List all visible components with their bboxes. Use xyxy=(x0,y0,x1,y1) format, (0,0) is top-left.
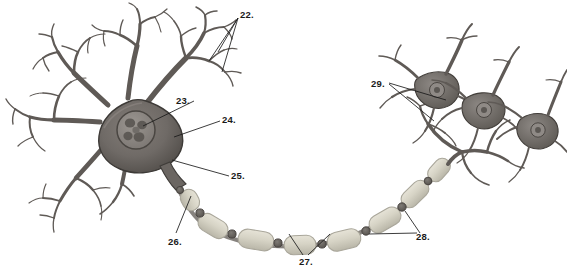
axon-hillock xyxy=(160,162,186,190)
label-28: 28. xyxy=(416,232,430,242)
label-24: 24. xyxy=(222,115,236,125)
nucleus xyxy=(117,111,155,149)
label-27: 27. xyxy=(299,257,313,267)
leader-line-25 xyxy=(172,160,229,176)
node-of-ranvier xyxy=(424,177,432,185)
dendrite-branch xyxy=(92,3,167,98)
leader-line-28 xyxy=(405,211,420,233)
node-of-ranvier xyxy=(398,203,406,211)
node-of-ranvier xyxy=(196,209,204,217)
dendrite-branch xyxy=(29,144,110,232)
label-25: 25. xyxy=(231,171,245,181)
leader-line-22 xyxy=(209,18,238,61)
label-26: 26. xyxy=(168,237,182,247)
myelin-segment xyxy=(237,228,276,252)
label-29: 29. xyxy=(371,79,385,89)
myelin-segment xyxy=(325,227,362,253)
neuron-illustration xyxy=(0,0,567,277)
label-23: 23. xyxy=(176,96,190,106)
leader-line-22 xyxy=(218,18,238,52)
node-of-ranvier xyxy=(362,227,370,235)
label-22: 22. xyxy=(240,10,254,20)
node-of-ranvier xyxy=(176,186,183,193)
neuron-diagram-figure: 22. 23. 24. 25. 26. 27. 28. 29. xyxy=(0,0,567,277)
node-of-ranvier xyxy=(274,239,282,247)
axon-with-myelin-sheath xyxy=(176,155,453,255)
node-of-ranvier xyxy=(228,230,236,238)
dendrite-branch xyxy=(6,78,100,151)
